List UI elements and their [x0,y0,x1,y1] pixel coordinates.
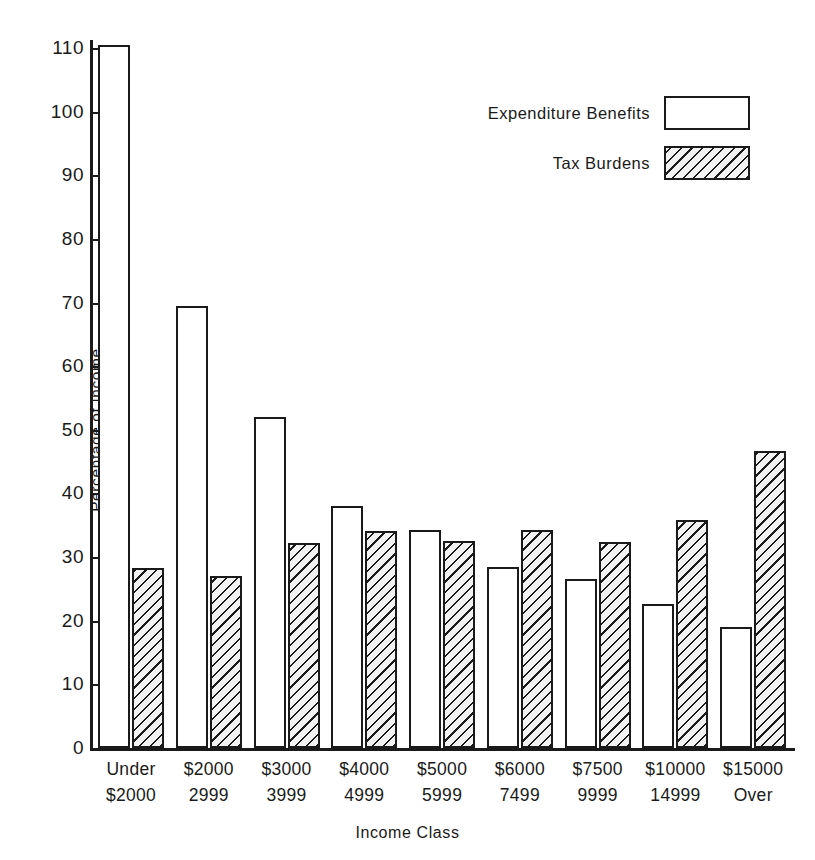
bar-group [331,48,397,748]
x-tick-label-line: $3000 [242,756,332,782]
bar-expenditure-benefits [254,417,286,748]
bar-tax-burdens [365,531,397,748]
x-tick-label: $15000Over [708,756,798,808]
x-tick-label-line: $5000 [397,756,487,782]
y-tick-label: 110 [52,37,84,59]
y-tick-mark [92,748,105,750]
x-tick-label: $40004999 [319,756,409,808]
bar-group [176,48,242,748]
x-tick-label-line: $4000 [319,756,409,782]
bar-tax-burdens [676,520,708,748]
x-axis-line [90,748,795,751]
bar-tax-burdens [599,542,631,748]
x-axis-title: Income Class [0,824,815,842]
x-tick-label-line: Under [86,756,176,782]
x-tick-label: $75009999 [553,756,643,808]
bar-expenditure-benefits [176,306,208,748]
x-tick-label: $60007499 [475,756,565,808]
x-tick-label-line: 4999 [319,782,409,808]
legend-swatch-expenditure-benefits [664,96,750,130]
y-tick-label: 30 [62,546,84,568]
bar-expenditure-benefits [409,530,441,748]
x-tick-label-line: $7500 [553,756,643,782]
y-tick-label: 100 [51,100,84,122]
legend-item-tax-burdens: Tax Burdens [430,146,750,180]
x-tick-label-line: 9999 [553,782,643,808]
bar-chart-figure: Percentage of Income Income Class 010203… [0,0,815,860]
x-tick-label: $1000014999 [630,756,720,808]
bar-expenditure-benefits [642,604,674,748]
y-tick-label: 0 [73,737,84,759]
legend-label: Tax Burdens [553,154,650,173]
x-tick-label-line: 14999 [630,782,720,808]
bar-tax-burdens [521,530,553,748]
bar-expenditure-benefits [98,45,130,748]
x-tick-label-line: 2999 [164,782,254,808]
legend-label: Expenditure Benefits [488,104,650,123]
x-tick-label-line: 7499 [475,782,565,808]
x-tick-label-line: Over [708,782,798,808]
x-tick-label: Under$2000 [86,756,176,808]
bar-expenditure-benefits [331,506,363,748]
bar-tax-burdens [754,451,786,748]
y-tick-label: 60 [62,355,84,377]
x-tick-label-line: 5999 [397,782,487,808]
chart-legend: Expenditure Benefits Tax Burdens [430,96,750,196]
y-tick-label: 50 [62,418,84,440]
bar-group [98,48,164,748]
bar-expenditure-benefits [487,567,519,748]
bar-tax-burdens [288,543,320,748]
y-tick-label: 20 [62,609,84,631]
bar-expenditure-benefits [565,579,597,748]
y-tick-label: 40 [62,482,84,504]
legend-item-expenditure-benefits: Expenditure Benefits [430,96,750,130]
bar-tax-burdens [132,568,164,748]
x-tick-label-line: 3999 [242,782,332,808]
bar-expenditure-benefits [720,627,752,748]
x-tick-label: $20002999 [164,756,254,808]
x-tick-label-line: $2000 [164,756,254,782]
x-tick-label-line: $6000 [475,756,565,782]
y-tick-label: 90 [62,164,84,186]
bar-tax-burdens [210,576,242,748]
y-tick-label: 10 [62,673,84,695]
y-tick-label: 70 [62,291,84,313]
bar-group [254,48,320,748]
x-tick-label-line: $10000 [630,756,720,782]
x-tick-label: $50005999 [397,756,487,808]
bar-tax-burdens [443,541,475,748]
legend-swatch-tax-burdens [664,146,750,180]
x-tick-label-line: $15000 [708,756,798,782]
x-tick-label-line: $2000 [86,782,176,808]
y-tick-label: 80 [62,227,84,249]
x-tick-label: $30003999 [242,756,332,808]
